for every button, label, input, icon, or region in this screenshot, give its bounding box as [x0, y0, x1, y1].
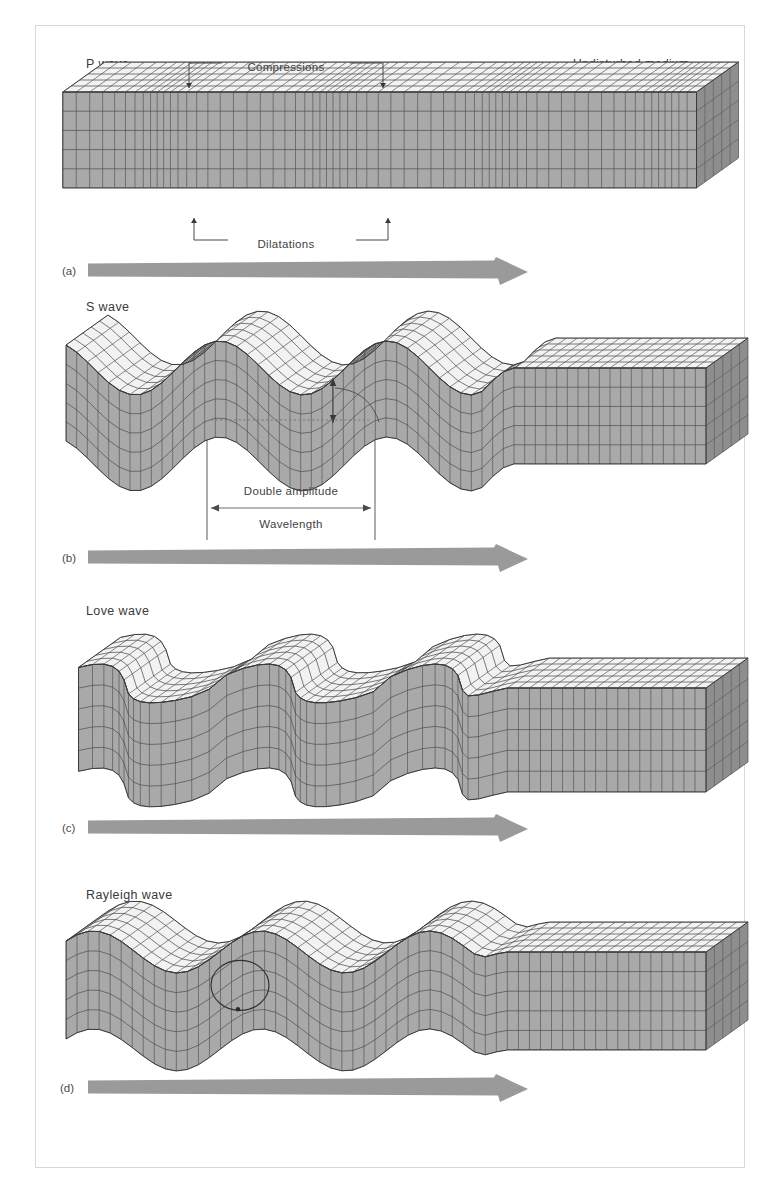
arrow-icon	[88, 544, 528, 572]
s-wave-svg: Double amplitudeWavelength	[0, 290, 776, 555]
double-amplitude-label: Double amplitude	[244, 485, 338, 497]
rayleigh-wave-block	[66, 901, 748, 1072]
p-wave-block	[63, 62, 739, 189]
s-wave-block	[66, 311, 748, 492]
panel-p-wave: P wave Undisturbed medium CompressionsDi…	[0, 0, 776, 290]
arrow-icon	[88, 1074, 528, 1102]
arrow-icon	[88, 257, 528, 285]
dilatations-label: Dilatations	[258, 238, 315, 250]
love-wave-svg	[0, 580, 776, 840]
arrow-icon	[88, 814, 528, 842]
wavelength-label: Wavelength	[259, 518, 322, 530]
rayleigh-wave-svg	[0, 870, 776, 1100]
panel-love-wave: Love wave (c)	[0, 580, 776, 870]
panel-s-wave: S wave Double amplitudeWavelength (b)	[0, 290, 776, 580]
love-wave-propagation-arrow	[0, 813, 776, 853]
compressions-label: Compressions	[247, 61, 324, 73]
love-wave-block	[79, 634, 748, 808]
panel-rayleigh-wave: Rayleigh wave (d)	[0, 870, 776, 1170]
seismic-wave-figure: P wave Undisturbed medium CompressionsDi…	[0, 0, 776, 1194]
s-wave-propagation-arrow	[0, 543, 776, 583]
p-wave-svg: CompressionsDilatations	[0, 0, 776, 290]
rayleigh-wave-propagation-arrow	[0, 1073, 776, 1113]
